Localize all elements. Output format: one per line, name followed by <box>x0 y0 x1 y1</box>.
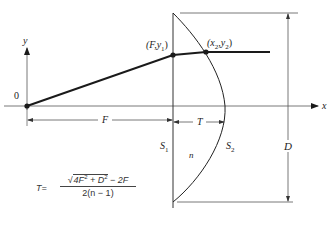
focal-length-label: F <box>102 115 108 125</box>
formula-numerator: √4F2 + D2 − 2F <box>60 174 136 187</box>
formula-term-d: + D <box>87 175 104 185</box>
point-f-y1-label: (F,y1) <box>146 40 168 53</box>
formula-lhs: T= <box>36 183 47 193</box>
lens-diagram <box>0 0 333 227</box>
surface-s2-label: S2 <box>226 141 235 154</box>
formula-denominator: 2(n − 1) <box>60 187 136 198</box>
point-x2-y2-end: ) <box>229 37 232 48</box>
diameter-label: D <box>284 141 292 152</box>
y-axis-label: y <box>23 36 27 46</box>
s1-sub: 1 <box>165 146 169 154</box>
s2-sub: 2 <box>231 146 235 154</box>
formula-term-2f: − 2F <box>108 175 129 185</box>
origin-point <box>24 103 29 108</box>
formula-fraction: √4F2 + D2 − 2F 2(n − 1) <box>60 174 136 198</box>
light-ray <box>27 52 270 106</box>
formula-term-4f: 4F <box>74 175 85 185</box>
refractive-index-label: n <box>189 151 194 160</box>
point-x2-y2-label: (x2,y2) <box>207 38 232 51</box>
point-x2-main: (x <box>207 37 215 48</box>
point-f-y1-end: ) <box>165 39 168 50</box>
thickness-label: T <box>197 117 203 127</box>
formula-sqrt: 4F2 + D2 <box>73 174 108 185</box>
point-f-y1 <box>170 52 175 57</box>
point-f-y1-main: (F,y <box>146 39 161 50</box>
origin-label: 0 <box>14 91 19 101</box>
x-axis-label: x <box>322 101 326 111</box>
surface-s1-label: S1 <box>160 141 169 154</box>
